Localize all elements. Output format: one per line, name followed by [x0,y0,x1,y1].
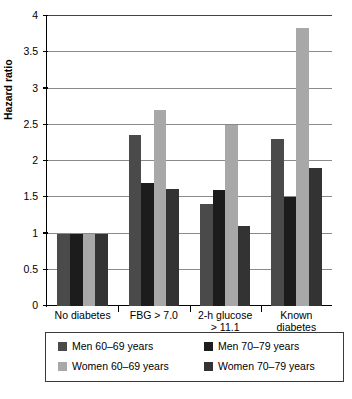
bar [95,234,108,307]
x-axis-category-label: FBG > 7.0 [118,310,189,322]
legend-item: Men 60–69 years [58,340,153,352]
y-axis-tick-mark [43,196,48,197]
bar [200,204,213,306]
x-axis-category-label-line: No diabetes [47,310,118,322]
y-axis-tick-mark [43,51,48,52]
y-axis-tick-mark [43,15,48,16]
y-axis-tick-mark [43,160,48,161]
x-axis-category-label-line: FBG > 7.0 [118,310,189,322]
bar [284,197,297,306]
y-axis-tick-label: 3.5 [0,46,38,56]
bar [57,234,70,307]
y-axis-tick-mark [43,232,48,233]
bar [129,135,142,306]
bar [166,189,179,306]
bar [296,28,309,306]
x-axis-category-label: Knowndiabetes [261,310,332,333]
bar [238,226,251,306]
legend-color-swatch [58,342,67,351]
legend-color-swatch [58,362,67,371]
legend-color-swatch [204,342,213,351]
y-axis-tick-mark [43,269,48,270]
bar [225,125,238,306]
y-axis-tick-label: 1 [0,228,38,238]
legend-color-swatch [204,362,213,371]
legend-item-label: Women 60–69 years [72,360,169,372]
bar [213,190,226,306]
y-axis-tick-mark [43,305,48,306]
x-axis-category-label: 2-h glucose> 11.1 [190,310,261,333]
legend-item-label: Men 60–69 years [72,340,153,352]
legend-item: Women 70–79 years [204,360,315,372]
bar [309,168,322,306]
y-axis-tick-label: 0 [0,300,38,310]
bar-group [200,16,250,306]
y-axis-tick-mark [43,124,48,125]
legend-item: Men 70–79 years [204,340,299,352]
legend-item: Women 60–69 years [58,360,169,372]
x-axis-category-label-line: Known [261,310,332,322]
bar [154,110,167,306]
bar-group [129,16,179,306]
y-axis-tick-label: 4 [0,10,38,20]
y-axis-tick-label: 0.5 [0,264,38,274]
x-axis-category-label-line: 2-h glucose [190,310,261,322]
bar [83,234,96,307]
y-axis-tick-label: 2 [0,155,38,165]
hazard-ratio-bar-chart: Hazard ratio 00.511.522.533.54 No diabet… [0,0,352,399]
chart-legend: Men 60–69 yearsMen 70–79 yearsWomen 60–6… [45,332,344,382]
legend-item-label: Men 70–79 years [218,340,299,352]
y-axis-tick-mark [43,87,48,88]
y-axis-tick-label: 3 [0,83,38,93]
legend-item-label: Women 70–79 years [218,360,315,372]
bar [141,183,154,306]
x-axis-category-label: No diabetes [47,310,118,322]
bar-group [271,16,321,306]
bar [70,234,83,307]
plot-area [47,16,332,306]
y-axis-tick-label: 2.5 [0,119,38,129]
bar [271,139,284,306]
bar-group [57,16,107,306]
y-axis-tick-label: 1.5 [0,191,38,201]
